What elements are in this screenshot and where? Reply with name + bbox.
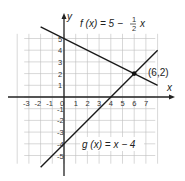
- svg-text:x: x: [139, 18, 146, 29]
- y-axis-arrow-icon: [62, 13, 67, 19]
- x-tick-label: -1: [46, 99, 53, 108]
- intersection-point: [132, 71, 137, 76]
- g-equation-label: g (x) = x − 4: [80, 137, 144, 151]
- y-tick-label: 1: [58, 81, 62, 90]
- f-equation-label: f (x) = 5 − 1 2 x: [78, 10, 150, 33]
- x-tick-label: 7: [144, 99, 148, 108]
- y-tick-label: -1: [57, 105, 64, 114]
- svg-text:f (x) = 5 −: f (x) = 5 −: [80, 18, 123, 29]
- x-axis-label: x: [166, 82, 173, 93]
- intersection-label: (6,2): [148, 67, 169, 78]
- x-tick-label: 1: [74, 99, 78, 108]
- svg-text:1: 1: [132, 15, 136, 24]
- y-tick-label: 3: [58, 58, 62, 67]
- x-tick-label: 2: [85, 99, 89, 108]
- x-tick-label: -3: [23, 99, 30, 108]
- y-axis-label: y: [66, 11, 73, 22]
- y-tick-label: 4: [58, 46, 62, 55]
- x-axis-arrow-icon: [169, 95, 175, 100]
- svg-text:g (x) = x − 4: g (x) = x − 4: [82, 139, 136, 150]
- y-tick-label: -3: [57, 128, 64, 137]
- x-tick-label: 4: [109, 99, 113, 108]
- x-tick-label: 5: [121, 99, 125, 108]
- x-tick-label: 6: [132, 99, 136, 108]
- y-tick-label: 2: [58, 70, 62, 79]
- svg-text:2: 2: [132, 24, 136, 33]
- y-tick-label: -5: [57, 152, 64, 161]
- graph-canvas: -3-2-10123456754321-1-2-3-4-5 x y (6,2) …: [0, 0, 185, 181]
- y-tick-label: -2: [57, 116, 64, 125]
- x-tick-label: -2: [35, 99, 42, 108]
